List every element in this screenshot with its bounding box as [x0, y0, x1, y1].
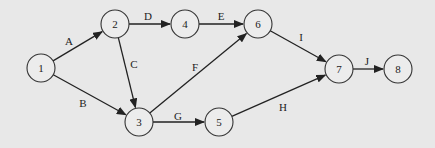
- edge-e: E: [199, 10, 243, 24]
- edge-g: G: [153, 110, 204, 122]
- edge-i: I: [270, 31, 326, 62]
- edge-d: D: [129, 10, 170, 24]
- edge-c: C: [118, 38, 137, 108]
- node-label: 8: [395, 63, 401, 75]
- node-label: 2: [112, 18, 118, 30]
- node-label: 3: [136, 116, 142, 128]
- edge-b: B: [53, 75, 126, 115]
- node-label: 7: [336, 63, 342, 75]
- node-label: 5: [216, 116, 222, 128]
- edge-label: H: [279, 101, 287, 113]
- edge-label: I: [299, 31, 303, 43]
- arrow-icon: [150, 34, 247, 114]
- node-label: 4: [182, 18, 188, 30]
- edge-label: A: [65, 35, 73, 47]
- edge-label: J: [365, 55, 370, 67]
- node-label: 1: [38, 62, 44, 74]
- edge-label: B: [79, 97, 86, 109]
- node-4: 4: [171, 10, 199, 38]
- node-6: 6: [244, 10, 272, 38]
- node-1: 1: [27, 54, 55, 82]
- edge-label: C: [130, 58, 137, 70]
- edge-label: G: [174, 110, 182, 122]
- edge-a: A: [53, 32, 102, 61]
- edge-j: J: [353, 55, 383, 69]
- node-8: 8: [384, 55, 412, 83]
- node-label: 6: [255, 18, 261, 30]
- edge-label: E: [218, 10, 225, 22]
- edge-f: F: [150, 34, 247, 114]
- edge-h: H: [232, 75, 325, 116]
- network-diagram: ABCDEFGHIJ 12345678: [0, 0, 435, 148]
- arrow-icon: [118, 38, 135, 108]
- edge-label: D: [144, 10, 152, 22]
- node-3: 3: [125, 108, 153, 136]
- node-5: 5: [205, 108, 233, 136]
- arrow-icon: [53, 32, 102, 61]
- node-2: 2: [101, 10, 129, 38]
- arrow-icon: [270, 31, 326, 62]
- edge-label: F: [192, 61, 198, 73]
- node-7: 7: [325, 55, 353, 83]
- arrow-icon: [53, 75, 126, 115]
